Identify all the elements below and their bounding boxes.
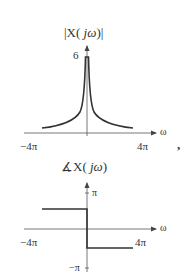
magnitude-peak-label: 6	[73, 50, 79, 61]
magnitude-title: |X( jω)|	[64, 26, 103, 39]
magnitude-x-min-label: −4π	[20, 141, 37, 152]
magnitude-curve	[42, 57, 133, 128]
phase-title-var: jω	[87, 159, 103, 174]
phase-x-min-label: −4π	[20, 237, 37, 248]
phase-plot	[24, 183, 156, 272]
phase-title-prefix: ∡X(	[61, 159, 87, 174]
separator-comma: ,	[177, 138, 180, 151]
magnitude-x-max-label: 4π	[137, 141, 148, 152]
phase-x-max-label: 4π	[135, 237, 146, 248]
phase-title-suffix: )	[103, 159, 107, 174]
phase-x-axis-label: ω	[160, 223, 167, 233]
phase-y-max-label: π	[92, 188, 97, 198]
magnitude-title-suffix: )|	[96, 25, 103, 40]
magnitude-title-prefix: |X(	[64, 25, 80, 40]
magnitude-plot	[24, 46, 156, 136]
magnitude-title-var: jω	[80, 25, 96, 40]
phase-y-min-label: −π	[69, 263, 80, 273]
phase-title: ∡X( jω)	[61, 160, 107, 173]
phase-curve	[42, 209, 133, 248]
magnitude-x-axis-label: ω	[160, 127, 167, 137]
